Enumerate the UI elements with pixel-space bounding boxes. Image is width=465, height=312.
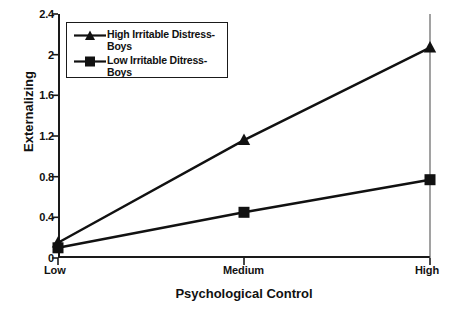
- chart-legend: High Irritable Distress- Boys Low Irrita…: [66, 22, 228, 78]
- chart-figure: Externalizing 2.4 2 1.6 1.2 0.8 0.4 0: [0, 0, 465, 312]
- x-tick-label: High: [415, 264, 439, 276]
- triangle-marker-icon: [73, 29, 107, 42]
- data-point-marker: [425, 174, 436, 185]
- data-point-marker: [53, 242, 64, 253]
- x-tick-label: Low: [44, 264, 66, 276]
- x-axis-title: Psychological Control: [58, 286, 430, 301]
- x-tick-label: Medium: [223, 264, 264, 276]
- data-point-marker: [424, 41, 436, 52]
- square-marker-icon: [73, 55, 107, 68]
- legend-entry: Low Irritable Ditress- Boys: [73, 54, 223, 78]
- legend-entry-label: High Irritable Distress- Boys: [107, 28, 215, 52]
- legend-entry: High Irritable Distress- Boys: [73, 28, 223, 52]
- y-axis-ticks: [52, 14, 58, 258]
- legend-entry-label: Low Irritable Ditress- Boys: [107, 54, 223, 78]
- data-point-marker: [239, 207, 250, 218]
